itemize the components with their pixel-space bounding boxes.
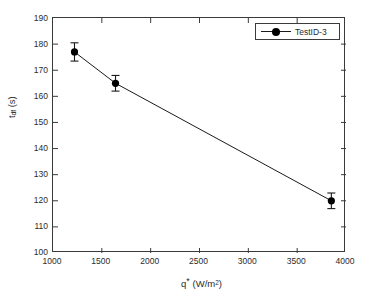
y-axis-label-subscript: df bbox=[10, 110, 17, 115]
y-tick-label: 110 bbox=[22, 222, 48, 231]
plot-area bbox=[52, 17, 345, 252]
x-tick-label: 2000 bbox=[130, 257, 170, 266]
x-tick-label: 1500 bbox=[81, 257, 121, 266]
x-tick-label: 2500 bbox=[179, 257, 219, 266]
legend[interactable]: TestID-3 bbox=[255, 23, 340, 40]
legend-marker-icon bbox=[261, 27, 291, 36]
y-tick-label: 180 bbox=[22, 40, 48, 49]
x-tick-label: 3000 bbox=[227, 257, 267, 266]
figure-canvas: 190 180 170 160 150 140 130 120 110 100 … bbox=[0, 0, 373, 304]
y-axis-label-units: (s) bbox=[6, 96, 17, 110]
legend-label: TestID-3 bbox=[295, 27, 327, 37]
error-bars bbox=[70, 43, 335, 209]
y-tick-label: 190 bbox=[22, 14, 48, 23]
series-line-testid-3 bbox=[74, 52, 331, 201]
data-point bbox=[112, 80, 119, 87]
plot-svg bbox=[53, 18, 346, 253]
y-tick-label: 130 bbox=[22, 170, 48, 179]
x-axis-label-units-post: ) bbox=[219, 278, 222, 289]
x-tick-label: 3500 bbox=[276, 257, 316, 266]
data-point bbox=[328, 197, 335, 204]
x-axis-label: q* (W/m2) bbox=[0, 276, 373, 289]
y-axis-label-symbol: t bbox=[6, 115, 17, 118]
y-tick-label: 170 bbox=[22, 66, 48, 75]
y-tick-label: 160 bbox=[22, 92, 48, 101]
x-tick-marks bbox=[102, 18, 297, 253]
y-tick-label: 140 bbox=[22, 144, 48, 153]
y-tick-label: 150 bbox=[22, 118, 48, 127]
y-tick-marks bbox=[53, 44, 346, 227]
x-tick-label: 4000 bbox=[325, 257, 365, 266]
y-axis-label: tdf (s) bbox=[6, 96, 17, 118]
x-axis-label-units-pre: (W/m bbox=[190, 278, 215, 289]
y-tick-label: 120 bbox=[22, 196, 48, 205]
data-point bbox=[71, 48, 78, 55]
x-tick-label: 1000 bbox=[32, 257, 72, 266]
